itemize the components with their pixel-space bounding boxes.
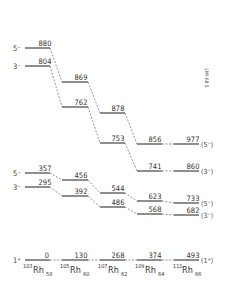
energy-values: 880 869 878 856 977 804 762 753 741 860 … [39, 39, 200, 260]
svg-text:Rh: Rh [182, 265, 193, 275]
svg-text:623: 623 [149, 192, 162, 201]
svg-text:357: 357 [39, 164, 52, 173]
svg-text:456: 456 [75, 171, 88, 180]
svg-text:107: 107 [98, 263, 107, 269]
svg-text:682: 682 [187, 206, 200, 215]
svg-text:1⁺: 1⁺ [13, 256, 21, 265]
svg-text:103: 103 [23, 263, 32, 269]
svg-text:295: 295 [39, 178, 52, 187]
svg-text:486: 486 [112, 198, 125, 207]
svg-text:880: 880 [39, 39, 52, 48]
figure-code: LMI-68.5 [204, 68, 210, 87]
svg-text:5⁻: 5⁻ [13, 169, 21, 178]
level-scheme-diagram: 880 869 878 856 977 804 762 753 741 860 … [0, 0, 226, 290]
connector-lines [50, 48, 174, 260]
nucleus-labels: 103 Rh 58 105 Rh 60 107 Rh 62 109 Rh 64 … [23, 263, 201, 277]
svg-text:392: 392 [75, 187, 88, 196]
energy-levels [25, 48, 199, 260]
svg-text:Rh: Rh [145, 265, 156, 275]
svg-text:856: 856 [149, 135, 162, 144]
svg-text:Rh: Rh [108, 265, 119, 275]
svg-text:268: 268 [112, 251, 125, 260]
tentative-spin-labels: (5⁻) (3⁻) (5⁻) (3⁻) (1⁺) [201, 141, 213, 265]
svg-text:544: 544 [112, 184, 125, 193]
svg-text:3⁻: 3⁻ [13, 62, 21, 71]
svg-text:741: 741 [149, 162, 162, 171]
svg-text:5⁻: 5⁻ [13, 44, 21, 53]
svg-text:3⁻: 3⁻ [13, 183, 21, 192]
svg-text:493: 493 [187, 251, 200, 260]
svg-text:109: 109 [135, 263, 144, 269]
svg-text:(3⁻): (3⁻) [201, 168, 213, 176]
svg-text:62: 62 [121, 271, 127, 277]
svg-text:Rh: Rh [33, 265, 44, 275]
svg-text:733: 733 [187, 194, 200, 203]
nucleus-109rh: 109 Rh 64 [135, 263, 164, 277]
svg-text:804: 804 [39, 57, 52, 66]
spin-labels: 5⁻ 3⁻ 5⁻ 3⁻ 1⁺ [13, 44, 21, 265]
svg-text:869: 869 [75, 73, 88, 82]
svg-text:568: 568 [149, 205, 162, 214]
svg-text:66: 66 [195, 271, 201, 277]
svg-text:(1⁺): (1⁺) [201, 257, 213, 265]
nucleus-107rh: 107 Rh 62 [98, 263, 127, 277]
svg-text:105: 105 [60, 263, 69, 269]
svg-text:(5⁻): (5⁻) [201, 141, 213, 149]
svg-text:64: 64 [158, 271, 164, 277]
nucleus-103rh: 103 Rh 58 [23, 263, 52, 277]
nucleus-111rh: 111 Rh 66 [173, 263, 201, 277]
svg-text:58: 58 [46, 271, 52, 277]
nucleus-105rh: 105 Rh 60 [60, 263, 89, 277]
svg-text:374: 374 [149, 251, 162, 260]
svg-text:0: 0 [45, 251, 49, 260]
svg-text:(5⁻): (5⁻) [201, 200, 213, 208]
svg-text:130: 130 [75, 251, 88, 260]
svg-text:(3⁻): (3⁻) [201, 212, 213, 220]
svg-text:753: 753 [112, 134, 125, 143]
svg-text:878: 878 [112, 104, 125, 113]
svg-text:Rh: Rh [70, 265, 81, 275]
svg-text:60: 60 [83, 271, 89, 277]
svg-text:762: 762 [75, 98, 88, 107]
svg-text:860: 860 [187, 162, 200, 171]
svg-text:977: 977 [187, 135, 200, 144]
